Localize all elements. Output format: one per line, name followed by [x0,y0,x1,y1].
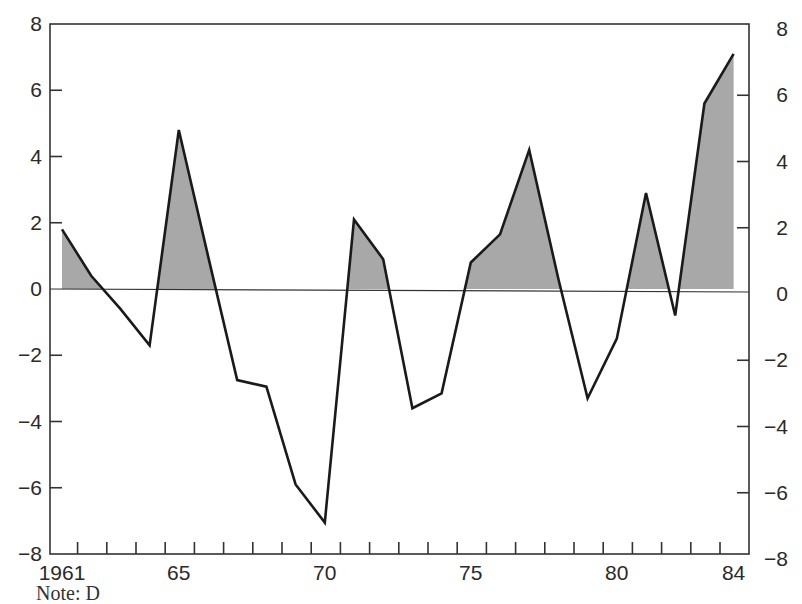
right-y-tick-label: 4 [776,150,788,173]
x-tick-label: 80 [605,561,628,584]
left-y-tick-label: 0 [30,277,42,300]
positive-area-segment [627,193,669,289]
right-y-tick-label: 8 [776,17,788,40]
left-y-tick-label: −6 [18,476,42,499]
x-tick-label: 75 [459,561,482,584]
positive-area-segment [679,54,734,289]
x-tick-label: 1961 [39,561,86,584]
right-y-tick-label: 6 [776,83,788,106]
x-tick-label: 70 [313,561,336,584]
right-y-tick-label: 2 [776,216,788,239]
x-tick-label: 65 [167,561,190,584]
x-axis: 19616570758084 [39,542,746,584]
left-y-tick-label: 2 [30,211,42,234]
right-y-axis: 86420−2−4−6−8 [737,17,788,570]
right-y-tick-label: −6 [764,481,788,504]
right-y-tick-label: −4 [764,415,788,438]
left-y-tick-label: −4 [18,410,42,433]
right-y-tick-label: 0 [776,282,788,305]
left-y-tick-label: −2 [18,343,42,366]
left-y-tick-label: 8 [30,12,42,35]
right-y-tick-label: −8 [764,547,788,570]
zero-line [50,289,749,292]
chart-note-caption: Note: D [36,582,100,604]
positive-area-segment [465,150,561,289]
right-y-tick-label: −2 [764,348,788,371]
positive-area-segment [157,130,216,289]
left-y-tick-label: 6 [30,78,42,101]
x-tick-label: 84 [722,561,746,584]
left-y-tick-label: 4 [30,145,42,168]
